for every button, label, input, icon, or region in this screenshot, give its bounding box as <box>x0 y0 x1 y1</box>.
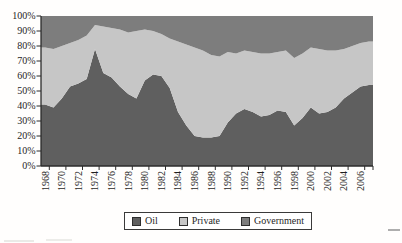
legend-item-private: Private <box>179 213 220 229</box>
x-tick-label: 2006 <box>355 171 366 191</box>
legend-swatch-government <box>241 217 250 226</box>
x-tick-label: 1996 <box>272 171 283 191</box>
scan-artifact <box>46 239 72 241</box>
y-tick-label: 50% <box>17 85 35 96</box>
x-tick-label: 1978 <box>123 171 134 191</box>
x-tick-label: 1986 <box>189 171 200 191</box>
x-tick-label: 1992 <box>239 171 250 191</box>
x-tick-label: 2002 <box>322 171 333 191</box>
legend-swatch-oil <box>132 217 141 226</box>
x-tick-label: 1998 <box>289 171 300 191</box>
x-tick-label: 1980 <box>139 171 150 191</box>
x-tick-label: 1994 <box>255 171 266 191</box>
x-tick-label: 1990 <box>222 171 233 191</box>
legend-label-private: Private <box>192 213 220 229</box>
y-tick-label: 70% <box>17 55 35 66</box>
legend-label-oil: Oil <box>145 213 158 229</box>
y-tick-label: 100% <box>12 10 35 21</box>
y-tick-label: 80% <box>17 40 35 51</box>
x-tick-label: 2000 <box>305 171 316 191</box>
y-tick-label: 20% <box>17 130 35 141</box>
legend-item-oil: Oil <box>132 213 158 229</box>
chart-legend: Oil Private Government <box>124 212 312 230</box>
stacked-area-chart: 100%90%80%70%60%50%40%30%20%10%0%1968197… <box>0 0 402 243</box>
y-tick-label: 60% <box>17 70 35 81</box>
legend-item-government: Government <box>241 213 304 229</box>
chart-figure: 100%90%80%70%60%50%40%30%20%10%0%1968197… <box>0 0 402 243</box>
y-tick-label: 30% <box>17 115 35 126</box>
x-tick-label: 1972 <box>73 171 84 191</box>
legend-label-government: Government <box>254 213 304 229</box>
x-tick-label: 1974 <box>89 171 100 191</box>
scan-artifact <box>4 240 34 242</box>
x-tick-label: 1984 <box>172 171 183 191</box>
y-tick-label: 90% <box>17 25 35 36</box>
y-tick-label: 0% <box>22 160 35 171</box>
y-tick-label: 40% <box>17 100 35 111</box>
scan-artifact <box>388 229 400 231</box>
x-tick-label: 1976 <box>106 171 117 191</box>
x-tick-label: 1982 <box>156 171 167 191</box>
x-tick-label: 1968 <box>40 171 51 191</box>
x-tick-label: 1988 <box>206 171 217 191</box>
x-tick-label: 2004 <box>338 171 349 191</box>
x-tick-label: 1970 <box>56 171 67 191</box>
y-tick-label: 10% <box>17 145 35 156</box>
legend-swatch-private <box>179 217 188 226</box>
